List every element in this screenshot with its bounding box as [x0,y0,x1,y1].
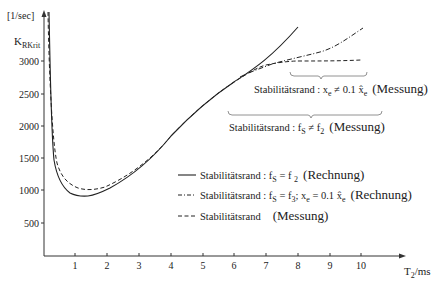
legend-item-messung: Stabilitätsrand(Messung) [178,208,328,223]
legend: Stabilitätsrand : fS = f 2(Rechnung) Sta… [178,167,412,223]
y-tick-1000: 1000 [19,185,39,196]
axes: 3000 2500 2000 1500 1000 500 1 2 3 4 5 6… [7,10,431,280]
x-tick-5: 5 [201,260,206,271]
x-tick-10: 10 [356,260,366,271]
legend-item-rechnung-f3: Stabilitätsrand : fS = f3; xe = 0.1 x̂e(… [178,187,412,204]
svg-text:Stabilitätsrand(Messung): Stabilitätsrand(Messung) [200,208,328,223]
svg-text:Stabilitätsrand : xe ≠ 0.1 x̂e: Stabilitätsrand : xe ≠ 0.1 x̂e(Messung) [254,81,428,98]
x-tick-3: 3 [137,260,142,271]
y-tick-2500: 2500 [19,89,39,100]
x-tick-7: 7 [264,260,269,271]
series-rechnung-f3 [240,28,363,77]
svg-text:Stabilitätsrand : fS = f 2(Rec: Stabilitätsrand : fS = f 2(Rechnung) [200,167,364,184]
series-messung [48,12,361,190]
y-tick-1500: 1500 [19,153,39,164]
y-axis-arrow-icon [42,10,47,17]
brace-icon [290,72,367,79]
x-tick-9: 9 [328,260,333,271]
x-tick-2: 2 [105,260,110,271]
svg-text:Stabilitätsrand : fS = f3; xe: Stabilitätsrand : fS = f3; xe = 0.1 x̂e(… [200,187,412,204]
legend-item-rechnung-f2: Stabilitätsrand : fS = f 2(Rechnung) [178,167,364,184]
y-tick-3000: 3000 [19,56,39,67]
x-tick-1: 1 [73,260,78,271]
y-tick-500: 500 [24,218,39,229]
x-axis-arrow-icon [399,254,406,259]
x-tick-6: 6 [232,260,237,271]
brace-icon [228,111,382,118]
series-rechnung-f2 [49,12,298,196]
y-axis-unit: [1/sec] [7,10,34,21]
annotation-xe: Stabilitätsrand : xe ≠ 0.1 x̂e(Messung) [254,72,428,98]
x-axis-label: T2/ms [404,265,431,280]
annotation-fs: Stabilitätsrand : fS ≠ f2(Messung) [228,111,385,136]
chart: 3000 2500 2000 1500 1000 500 1 2 3 4 5 6… [0,0,448,288]
svg-text:Stabilitätsrand : fS ≠ f2(Mess: Stabilitätsrand : fS ≠ f2(Messung) [229,119,385,136]
x-tick-4: 4 [169,260,174,271]
x-tick-8: 8 [296,260,301,271]
y-tick-2000: 2000 [19,121,39,132]
y-axis-label: KRKrit [14,35,41,50]
